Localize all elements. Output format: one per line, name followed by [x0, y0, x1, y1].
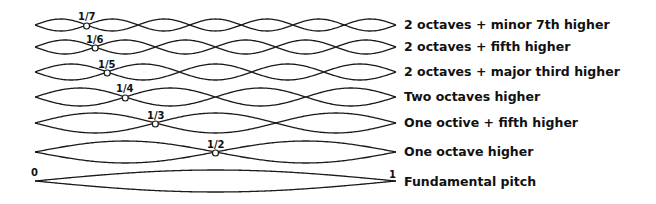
label-harmonic-4: Two octaves higher — [404, 90, 540, 104]
standing-wave-4 — [35, 88, 396, 106]
standing-wave-5 — [35, 64, 396, 80]
node-label-1-4: 1/4 — [116, 84, 134, 94]
standing-wave-1 — [35, 170, 396, 192]
node-label-1-2: 1/2 — [207, 140, 225, 150]
node-marker-5 — [104, 70, 110, 76]
node-label-1-6: 1/6 — [86, 35, 104, 45]
node-label-1-3: 1/3 — [147, 111, 165, 121]
string-end-label: 1 — [389, 170, 396, 180]
label-harmonic-7: 2 octaves + minor 7th higher — [404, 18, 610, 32]
label-harmonic-5: 2 octaves + major third higher — [404, 65, 620, 79]
label-fundamental: Fundamental pitch — [404, 175, 536, 189]
node-marker-6 — [92, 45, 98, 51]
label-harmonic-2: One octave higher — [404, 145, 533, 159]
node-label-1-7: 1/7 — [78, 12, 96, 22]
label-harmonic-6: 2 octaves + fifth higher — [404, 40, 570, 54]
node-marker-2 — [213, 150, 219, 156]
node-label-1-5: 1/5 — [98, 60, 116, 70]
string-start-label: 0 — [31, 168, 38, 178]
standing-wave-3 — [35, 113, 396, 133]
label-harmonic-3: One octive + fifth higher — [404, 116, 578, 130]
node-marker-4 — [122, 95, 128, 101]
node-marker-3 — [152, 121, 158, 127]
node-marker-7 — [84, 23, 90, 29]
